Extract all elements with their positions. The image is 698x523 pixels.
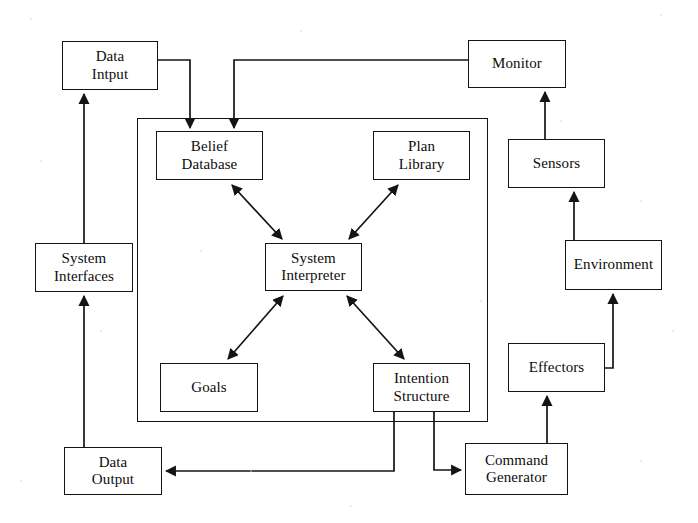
node-data-output-label: Data Output [89,454,137,489]
node-effectors[interactable]: Effectors [508,343,605,392]
node-system-interfaces[interactable]: System Interfaces [35,243,133,292]
scan-speck [350,505,352,507]
scan-speck [100,330,102,332]
node-system-interpreter-label: System Interpreter [278,250,348,285]
node-effectors-label: Effectors [526,359,588,376]
node-sensors-label: Sensors [530,155,583,172]
node-goals[interactable]: Goals [160,363,258,412]
scan-speck [660,14,662,16]
node-data-input-label: Data Intput [89,48,131,83]
scan-speck [640,200,642,202]
node-plan-library-label: Plan Library [396,138,448,173]
node-system-interpreter[interactable]: System Interpreter [265,243,362,291]
node-command-generator[interactable]: Command Generator [465,443,568,495]
scan-speck [672,330,674,332]
scan-speck [300,30,302,32]
node-environment[interactable]: Environment [565,240,662,290]
scan-speck [250,470,252,472]
node-environment-label: Environment [571,256,656,273]
node-intention-structure-label: Intention Structure [391,370,453,405]
scan-speck [40,160,42,162]
scan-speck [30,18,32,20]
node-monitor[interactable]: Monitor [468,40,566,88]
scan-speck [480,300,482,302]
node-intention-structure[interactable]: Intention Structure [373,363,470,412]
diagram-canvas: Data Intput Monitor Belief Database Plan… [0,0,698,523]
scan-speck [640,460,642,462]
node-command-generator-label: Command Generator [482,452,551,487]
node-data-output[interactable]: Data Output [64,447,162,495]
node-plan-library[interactable]: Plan Library [373,131,470,180]
scan-speck [20,480,22,482]
node-belief-database-label: Belief Database [179,138,241,173]
edge-effectors-to-environment [605,294,613,368]
node-monitor-label: Monitor [489,55,545,72]
node-belief-database[interactable]: Belief Database [156,131,263,180]
node-goals-label: Goals [188,379,230,396]
node-data-input[interactable]: Data Intput [62,41,158,90]
scan-speck [560,120,562,122]
node-system-interfaces-label: System Interfaces [51,250,117,285]
node-sensors[interactable]: Sensors [508,139,605,188]
scan-speck [200,250,202,252]
